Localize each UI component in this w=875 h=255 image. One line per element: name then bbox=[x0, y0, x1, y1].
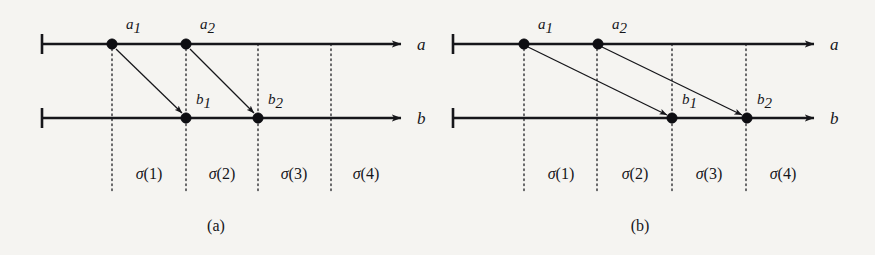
point-b2-label: b2 bbox=[268, 91, 284, 111]
panel-a-axis-names: a b bbox=[417, 35, 426, 128]
point-b2-dot bbox=[253, 113, 263, 123]
panel-b-point-labels: a1 a2 b1 b2 bbox=[538, 16, 773, 111]
panel-b-mapping-arrows bbox=[528, 47, 742, 115]
interval-label-sigma-2: σ(2) bbox=[622, 165, 649, 183]
point-b1-label: b1 bbox=[196, 91, 211, 111]
panel-a-axis-b bbox=[42, 108, 401, 128]
interval-label-sigma-3: σ(3) bbox=[281, 165, 308, 183]
arrow-a1-to-b1 bbox=[116, 49, 182, 113]
point-a1-label: a1 bbox=[126, 16, 141, 36]
interval-label-sigma-1: σ(1) bbox=[548, 165, 575, 183]
panel-a-event-dots bbox=[107, 39, 263, 123]
axis-a-label: a bbox=[417, 35, 426, 54]
panel-a-axis-a bbox=[42, 34, 401, 54]
point-a2-label: a2 bbox=[612, 16, 628, 36]
point-b1-dot bbox=[667, 113, 677, 123]
interval-label-sigma-3: σ(3) bbox=[696, 165, 723, 183]
axis-b-label: b bbox=[417, 109, 426, 128]
panel-b: a1 a2 b1 b2 a b σ(1) bbox=[453, 16, 839, 235]
interval-label-sigma-4: σ(4) bbox=[353, 165, 380, 183]
point-a1-label: a1 bbox=[538, 16, 553, 36]
figure-container: a1 a2 b1 b2 a b σ(1) bbox=[0, 0, 875, 255]
point-b1-dot bbox=[181, 113, 191, 123]
point-a1-dot bbox=[107, 39, 117, 49]
figure-svg: a1 a2 b1 b2 a b σ(1) bbox=[0, 0, 875, 255]
point-a2-dot bbox=[181, 39, 191, 49]
interval-label-sigma-2: σ(2) bbox=[209, 165, 236, 183]
point-a2-dot bbox=[593, 39, 603, 49]
axis-a-label: a bbox=[830, 35, 839, 54]
panel-a-mapping-arrows bbox=[116, 49, 254, 113]
point-b2-dot bbox=[742, 113, 752, 123]
point-a1-dot bbox=[519, 39, 529, 49]
panel-b-caption: (b) bbox=[631, 217, 650, 235]
point-a2-label: a2 bbox=[200, 16, 216, 36]
panel-a: a1 a2 b1 b2 a b σ(1) bbox=[42, 16, 426, 235]
panel-b-axis-a bbox=[453, 34, 814, 54]
point-b2-label: b2 bbox=[757, 91, 773, 111]
axis-b-label: b bbox=[830, 109, 839, 128]
panel-b-axis-b bbox=[453, 108, 814, 128]
interval-label-sigma-4: σ(4) bbox=[770, 165, 797, 183]
panel-b-event-dots bbox=[519, 39, 752, 123]
interval-label-sigma-1: σ(1) bbox=[136, 165, 163, 183]
point-b1-label: b1 bbox=[682, 91, 697, 111]
panel-b-axis-names: a b bbox=[830, 35, 839, 128]
panel-a-caption: (a) bbox=[207, 217, 225, 235]
